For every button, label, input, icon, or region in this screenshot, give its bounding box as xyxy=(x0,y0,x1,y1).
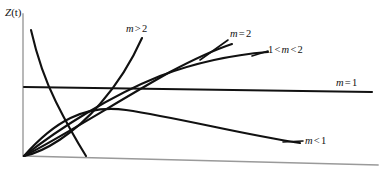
annotation-variable: m xyxy=(126,23,134,34)
annotation-m-less-than-1: m<1 xyxy=(305,136,326,147)
annotation-m-between-1-and-2: 1<m<2 xyxy=(268,45,303,56)
annotation-variable: m xyxy=(305,135,313,146)
annotation-m-greater-than-2: m>2 xyxy=(126,24,147,35)
annotation-value: 2 xyxy=(246,28,251,39)
annotation-operator: < xyxy=(313,135,321,146)
x-axis-line xyxy=(23,156,378,165)
annotation-m-equals-2: m=2 xyxy=(230,29,251,40)
chart-figure: Z(t) m>2 m=2 1<m<2 m=1 m<1 xyxy=(0,0,382,172)
annotation-m-equals-1: m=1 xyxy=(336,78,357,89)
annotation-value: 1 xyxy=(352,77,357,88)
annotation-operator: = xyxy=(344,77,352,88)
annotation-operator-high: < xyxy=(289,44,297,55)
annotation-value: 2 xyxy=(142,23,147,34)
annotation-value: 1 xyxy=(321,135,326,146)
annotation-operator-low: < xyxy=(273,44,281,55)
annotation-variable: m xyxy=(336,77,344,88)
curve-m-equals-1 xyxy=(24,87,372,92)
leader-line-m-less-than-1 xyxy=(283,141,303,142)
annotation-operator: > xyxy=(134,23,142,34)
annotation-operator: = xyxy=(238,28,246,39)
annotation-variable: m xyxy=(230,28,238,39)
annotation-upper-bound: 2 xyxy=(298,44,303,55)
